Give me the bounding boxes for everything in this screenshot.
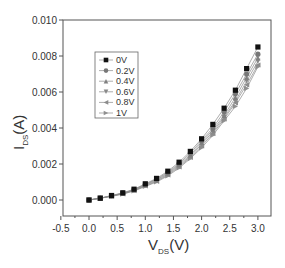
x-axis-title: VDS(V) (148, 236, 189, 256)
legend-label: 0.2V (116, 66, 135, 76)
x-tick-label: 1.0 (138, 223, 152, 234)
x-tick-label: 2.0 (195, 223, 209, 234)
x-axis: -0.50.00.51.01.52.02.53.0 (52, 216, 265, 234)
y-tick-label: 0.000 (32, 195, 57, 206)
y-axis-title: IDS(A) (10, 115, 30, 150)
square-marker-icon (222, 106, 227, 111)
square-marker-icon (188, 149, 193, 154)
square-marker-icon (255, 44, 260, 49)
y-axis: 0.0000.0020.0040.0060.0080.010 (32, 15, 63, 206)
square-marker-icon (199, 136, 204, 141)
legend-label: 0.6V (116, 87, 135, 97)
y-tick-label: 0.010 (32, 15, 57, 26)
circle-marker-icon (255, 52, 260, 57)
square-marker-icon (244, 66, 249, 71)
legend-label: 0.4V (116, 76, 135, 86)
x-tick-label: 1.5 (166, 223, 180, 234)
x-tick-label: 0.5 (110, 223, 124, 234)
x-tick-label: 3.0 (251, 223, 265, 234)
legend: 0V0.2V0.4V0.6V0.8V1V (95, 52, 138, 118)
plot-frame (63, 20, 271, 216)
square-marker-icon (104, 58, 109, 63)
square-marker-icon (176, 160, 181, 165)
square-marker-icon (109, 193, 114, 198)
legend-label: 0.8V (116, 97, 135, 107)
y-tick-label: 0.006 (32, 87, 57, 98)
x-tick-label: 2.5 (223, 223, 237, 234)
y-tick-label: 0.002 (32, 159, 57, 170)
square-marker-icon (210, 122, 215, 127)
square-marker-icon (165, 169, 170, 174)
square-marker-icon (86, 197, 91, 202)
x-tick-label: 0.0 (82, 223, 96, 234)
square-marker-icon (143, 181, 148, 186)
square-marker-icon (120, 190, 125, 195)
y-tick-label: 0.008 (32, 51, 57, 62)
circle-marker-icon (104, 68, 109, 73)
iv-curve-chart: -0.50.00.51.01.52.02.53.0 0.0000.0020.00… (0, 0, 285, 268)
square-marker-icon (154, 176, 159, 181)
y-tick-label: 0.004 (32, 123, 57, 134)
legend-label: 0V (116, 55, 127, 65)
legend-label: 1V (116, 108, 127, 118)
square-marker-icon (233, 88, 238, 93)
x-tick-label: -0.5 (52, 223, 70, 234)
square-marker-icon (131, 187, 136, 192)
square-marker-icon (98, 196, 103, 201)
